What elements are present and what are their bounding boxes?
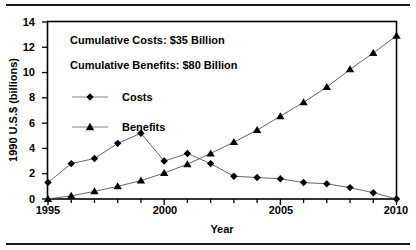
data-point-diamond — [277, 175, 284, 182]
top-divider-rule — [6, 4, 410, 6]
data-point-diamond — [393, 195, 400, 202]
line-chart: 14 12 10 8 6 4 2 0 1990 U.S.$ (billions)… — [0, 0, 416, 250]
figure-container: 14 12 10 8 6 4 2 0 1990 U.S.$ (billions)… — [0, 0, 416, 250]
annotation-cumulative-benefits: Cumulative Benefits: $80 Billion — [70, 59, 238, 71]
data-point-triangle — [369, 49, 377, 56]
x-tick-label: 2010 — [384, 204, 408, 216]
legend-label-benefits: Benefits — [122, 121, 165, 133]
y-tick-label: 12 — [23, 41, 35, 53]
data-point-diamond — [346, 184, 353, 191]
axis-tickmarks — [42, 22, 397, 205]
legend-marker-triangle-icon — [86, 123, 94, 130]
x-tick-label: 2005 — [269, 204, 293, 216]
annotation-cumulative-costs: Cumulative Costs: $35 Billion — [70, 34, 225, 46]
y-tick-label: 14 — [23, 16, 36, 28]
data-series-layer — [44, 32, 401, 203]
data-point-triangle — [392, 32, 400, 39]
data-point-triangle — [276, 112, 284, 119]
series-costs — [44, 130, 400, 203]
bottom-divider-rule — [6, 243, 410, 245]
legend-label-costs: Costs — [122, 91, 153, 103]
y-tick-label: 4 — [29, 142, 36, 154]
data-point-triangle — [206, 149, 214, 156]
data-point-triangle — [253, 126, 261, 133]
data-point-diamond — [184, 150, 191, 157]
x-axis-tick-labels: 1995 2000 2005 2010 — [36, 204, 408, 216]
legend-marker-diamond-icon — [86, 93, 93, 101]
y-tick-label: 2 — [29, 167, 35, 179]
y-tick-label: 0 — [29, 193, 35, 205]
data-point-diamond — [300, 179, 307, 186]
x-tick-label: 2000 — [153, 204, 177, 216]
data-point-diamond — [114, 140, 121, 147]
data-point-diamond — [253, 174, 260, 181]
data-point-triangle — [160, 169, 168, 176]
legend: Costs Benefits — [72, 91, 165, 133]
data-point-triangle — [346, 65, 354, 72]
series-line — [48, 133, 397, 199]
y-tick-label: 8 — [29, 91, 35, 103]
data-point-triangle — [323, 83, 331, 90]
y-tick-label: 10 — [23, 66, 35, 78]
y-tick-label: 6 — [29, 117, 35, 129]
data-point-diamond — [91, 155, 98, 162]
x-axis-title: Year — [210, 223, 234, 235]
plot-frame — [48, 22, 397, 200]
y-axis-tick-labels: 14 12 10 8 6 4 2 0 — [23, 16, 36, 205]
data-point-triangle — [230, 138, 238, 145]
data-point-diamond — [207, 160, 214, 167]
y-axis-title: 1990 U.S.$ (billions) — [7, 58, 19, 162]
data-point-diamond — [323, 180, 330, 187]
x-tick-label: 1995 — [36, 204, 60, 216]
data-point-triangle — [183, 160, 191, 167]
data-point-diamond — [230, 173, 237, 180]
series-benefits — [44, 32, 401, 202]
data-point-diamond — [370, 189, 377, 196]
data-point-triangle — [299, 98, 307, 105]
